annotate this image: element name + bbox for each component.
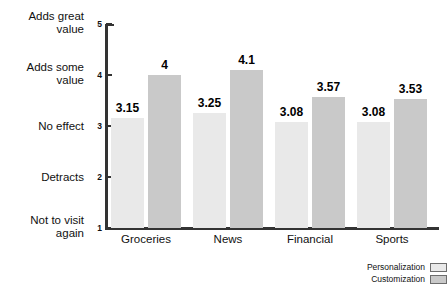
y-axis-tick-label-3: 3 xyxy=(88,121,102,131)
y-axis-label-4: Adds some value xyxy=(0,61,84,86)
bar-financial-customization: 3.57 xyxy=(312,97,345,228)
legend-swatch xyxy=(430,275,447,284)
legend-label: Personalization xyxy=(367,262,425,272)
x-axis-label-groceries: Groceries xyxy=(101,233,191,245)
legend-swatch xyxy=(430,263,447,272)
legend-label: Customization xyxy=(371,274,425,284)
legend-item-customization: Customization xyxy=(330,274,447,284)
x-axis-label-sports: Sports xyxy=(347,233,437,245)
bar-value-label: 4.1 xyxy=(238,53,255,67)
x-axis-label-news: News xyxy=(183,233,273,245)
bar-sports-customization: 3.53 xyxy=(394,99,427,228)
bar-value-label: 3.08 xyxy=(280,105,303,119)
bar-value-label: 3.57 xyxy=(317,80,340,94)
y-axis-label-5: Adds great value xyxy=(0,10,84,35)
bar-sports-personalization: 3.08 xyxy=(357,122,390,228)
bar-value-label: 4 xyxy=(161,58,168,72)
bar-groceries-customization: 4 xyxy=(148,75,181,228)
legend-item-personalization: Personalization xyxy=(330,262,447,272)
bar-value-label: 3.15 xyxy=(116,101,139,115)
chart-container: 12345 Not to visit againDetractsNo effec… xyxy=(0,0,447,291)
y-axis-label-3: No effect xyxy=(0,120,84,133)
y-axis-tick-label-5: 5 xyxy=(88,19,102,29)
y-axis-tick-label-2: 2 xyxy=(88,172,102,182)
bar-value-label: 3.25 xyxy=(198,96,221,110)
y-axis-tick-label-4: 4 xyxy=(88,70,102,80)
plot-area: 3.1543.254.13.083.573.083.53 xyxy=(105,24,439,228)
chart-legend: PersonalizationCustomization xyxy=(330,262,447,286)
bar-financial-personalization: 3.08 xyxy=(275,122,308,228)
y-axis-label-1: Not to visit again xyxy=(0,214,84,239)
x-axis-label-financial: Financial xyxy=(265,233,355,245)
y-axis-label-2: Detracts xyxy=(0,171,84,184)
bar-groceries-personalization: 3.15 xyxy=(111,118,144,228)
bar-news-personalization: 3.25 xyxy=(193,113,226,228)
bar-news-customization: 4.1 xyxy=(230,70,263,228)
y-axis-tick-label-1: 1 xyxy=(88,223,102,233)
bar-value-label: 3.53 xyxy=(399,82,422,96)
bar-value-label: 3.08 xyxy=(362,105,385,119)
